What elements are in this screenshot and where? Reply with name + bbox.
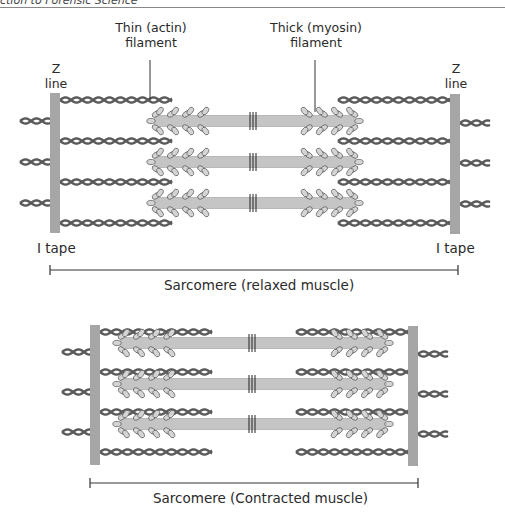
thin-filament-label-line1: Thin (actin) bbox=[111, 20, 191, 35]
thin-filament-label: Thin (actin) filament bbox=[111, 20, 191, 50]
actin-filament bbox=[296, 449, 408, 454]
relaxed-sarcomere bbox=[20, 93, 490, 275]
z-line-left-line2: line bbox=[36, 76, 76, 91]
actin-filament bbox=[460, 201, 490, 206]
thick-filament-label-line1: Thick (myosin) bbox=[266, 20, 366, 35]
actin-filament bbox=[460, 120, 490, 125]
thin-filament-label-line2: filament bbox=[111, 35, 191, 50]
thick-filament-label-line2: filament bbox=[266, 35, 366, 50]
z-line bbox=[450, 94, 460, 234]
i-band-label-left: I tape bbox=[37, 240, 76, 256]
actin-filament bbox=[60, 179, 172, 184]
actin-filament bbox=[62, 389, 90, 394]
z-line-right-line1: Z bbox=[436, 61, 476, 76]
myosin-filament bbox=[147, 188, 363, 218]
sarcomere-length-bar bbox=[90, 478, 418, 488]
actin-filament bbox=[20, 118, 50, 123]
myosin-filament bbox=[113, 409, 393, 439]
actin-filament bbox=[460, 160, 490, 165]
myosin-filament bbox=[147, 106, 363, 136]
z-line-label-left: Z line bbox=[36, 61, 76, 91]
z-line-label-right: Z line bbox=[436, 61, 476, 91]
actin-filament bbox=[20, 200, 50, 205]
z-line bbox=[408, 326, 418, 466]
actin-filament bbox=[60, 138, 172, 143]
myosin-filament bbox=[113, 328, 393, 358]
relaxed-sarcomere-caption: Sarcomere (relaxed muscle) bbox=[164, 277, 354, 293]
actin-filament bbox=[60, 220, 172, 225]
myosin-filament bbox=[113, 369, 393, 399]
actin-filament bbox=[62, 349, 90, 354]
actin-filament bbox=[60, 97, 172, 102]
z-line bbox=[50, 93, 60, 233]
z-line-right-line2: line bbox=[436, 76, 476, 91]
actin-filament bbox=[20, 159, 50, 164]
z-line-left-line1: Z bbox=[36, 61, 76, 76]
actin-filament bbox=[100, 449, 212, 454]
contracted-sarcomere bbox=[62, 325, 448, 488]
contracted-sarcomere-caption: Sarcomere (Contracted muscle) bbox=[153, 490, 368, 506]
i-band-label-right: I tape bbox=[436, 240, 475, 256]
actin-filament bbox=[418, 391, 448, 396]
myosin-filament bbox=[147, 147, 363, 177]
thick-filament-label: Thick (myosin) filament bbox=[266, 20, 366, 50]
actin-filament bbox=[62, 429, 90, 434]
actin-filament bbox=[338, 179, 450, 184]
actin-filament bbox=[338, 138, 450, 143]
actin-filament bbox=[418, 351, 448, 356]
actin-filament bbox=[338, 220, 450, 225]
actin-filament bbox=[338, 97, 450, 102]
sarcomere-length-bar bbox=[50, 265, 458, 275]
actin-filament bbox=[418, 431, 448, 436]
z-line bbox=[90, 325, 100, 465]
